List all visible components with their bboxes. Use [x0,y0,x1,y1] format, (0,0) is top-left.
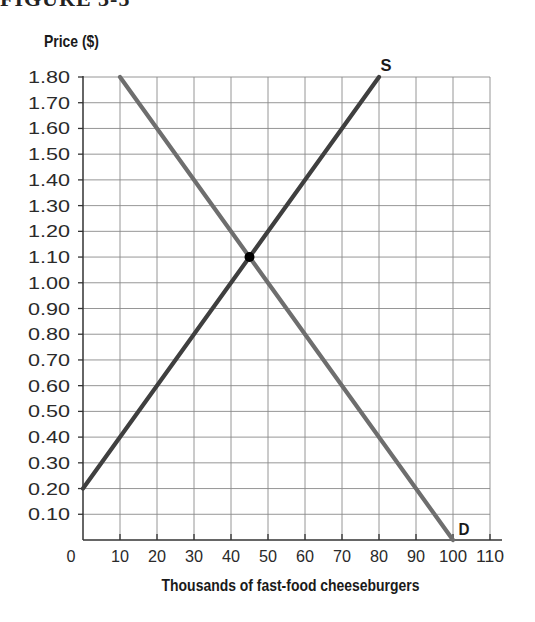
y-tick-label: 0.40 [28,429,70,446]
x-tick-label: 100 [439,548,467,565]
y-tick-label: 0.30 [28,455,70,472]
y-tick-label: 1.40 [28,172,70,189]
supply-demand-chart: 0.100.200.300.400.500.600.700.800.901.00… [0,0,535,622]
y-tick-label: 0.60 [28,378,70,395]
y-tick-label: 0.20 [28,481,70,498]
y-tick-label: 1.30 [28,198,70,215]
x-tick-label: 10 [111,548,129,565]
x-tick-label: 70 [333,548,351,565]
x-tick-label: 80 [370,548,388,565]
x-tick-label: 20 [148,548,166,565]
y-tick-label: 1.60 [28,120,70,137]
y-axis-ticks: 0.100.200.300.400.500.600.700.800.901.00… [28,69,83,523]
x-axis-ticks: 0102030405060708090100110 [67,534,505,565]
x-tick-label: 50 [259,548,277,565]
y-tick-label: 1.50 [28,146,70,163]
axes [83,76,502,540]
x-tick-label: 60 [296,548,314,565]
x-tick-label: 110 [476,548,504,565]
y-tick-label: 1.80 [28,69,70,86]
x-tick-label: 90 [407,548,425,565]
y-tick-label: 1.10 [28,249,70,266]
y-tick-label: 1.20 [28,223,70,240]
x-tick-label: 40 [222,548,240,565]
y-tick-label: 0.80 [28,326,70,343]
y-tick-label: 1.00 [28,275,70,292]
y-tick-label: 0.70 [28,352,70,369]
y-tick-label: 0.50 [28,403,70,420]
supply-label: S [381,56,392,75]
x-tick-label: 0 [67,548,76,565]
equilibrium-point [245,252,255,262]
y-tick-label: 0.90 [28,301,70,318]
demand-label: D [459,520,470,539]
y-tick-label: 1.70 [28,95,70,112]
y-tick-label: 0.10 [28,506,70,523]
x-tick-label: 30 [185,548,203,565]
